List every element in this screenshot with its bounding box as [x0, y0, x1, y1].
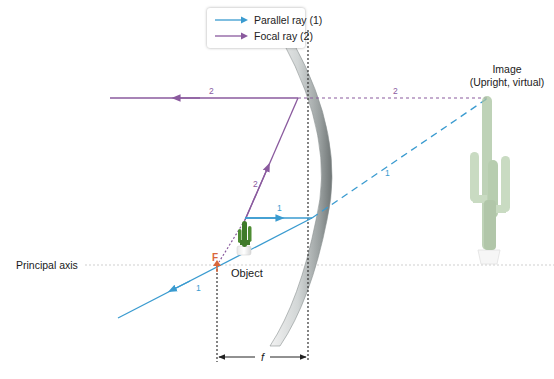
parallel-ray-reflected-arrow	[172, 281, 190, 290]
convex-mirror	[270, 42, 332, 346]
focal-ray-incident-arrow	[245, 167, 268, 220]
legend-label-focal-ray: Focal ray (2)	[254, 30, 313, 42]
focal-ray-virtual-number: 2	[393, 86, 398, 96]
focal-ray-swatch-icon	[215, 31, 249, 41]
focal-length-label: f	[261, 351, 264, 363]
focal-ray-incident-number: 2	[253, 179, 258, 189]
parallel-ray-virtual-number: 1	[385, 168, 390, 178]
object-label: Object	[231, 267, 263, 279]
legend-item-parallel-ray: Parallel ray (1)	[215, 13, 322, 27]
legend-label-parallel-ray: Parallel ray (1)	[254, 14, 322, 26]
image-title-label: Image	[470, 63, 544, 75]
parallel-ray-reflected	[118, 218, 312, 318]
image-cactus	[470, 96, 510, 264]
focal-ray-reflected-number: 2	[209, 86, 214, 96]
legend: Parallel ray (1) Focal ray (2)	[207, 8, 305, 48]
parallel-ray-swatch-icon	[215, 15, 249, 25]
parallel-ray-reflected-number: 1	[196, 283, 201, 293]
legend-item-focal-ray: Focal ray (2)	[215, 29, 313, 43]
convex-mirror-ray-diagram: Parallel ray (1) Focal ray (2) Image (Up…	[0, 0, 554, 379]
focal-point-label: F	[212, 252, 218, 263]
object-cactus	[237, 221, 252, 255]
parallel-ray-incident-number: 1	[277, 203, 282, 213]
diagram-canvas	[0, 0, 554, 379]
image-subtitle-label: (Upright, virtual)	[452, 76, 554, 88]
parallel-ray-virtual-extension	[312, 98, 488, 218]
principal-axis-label: Principal axis	[16, 259, 78, 271]
